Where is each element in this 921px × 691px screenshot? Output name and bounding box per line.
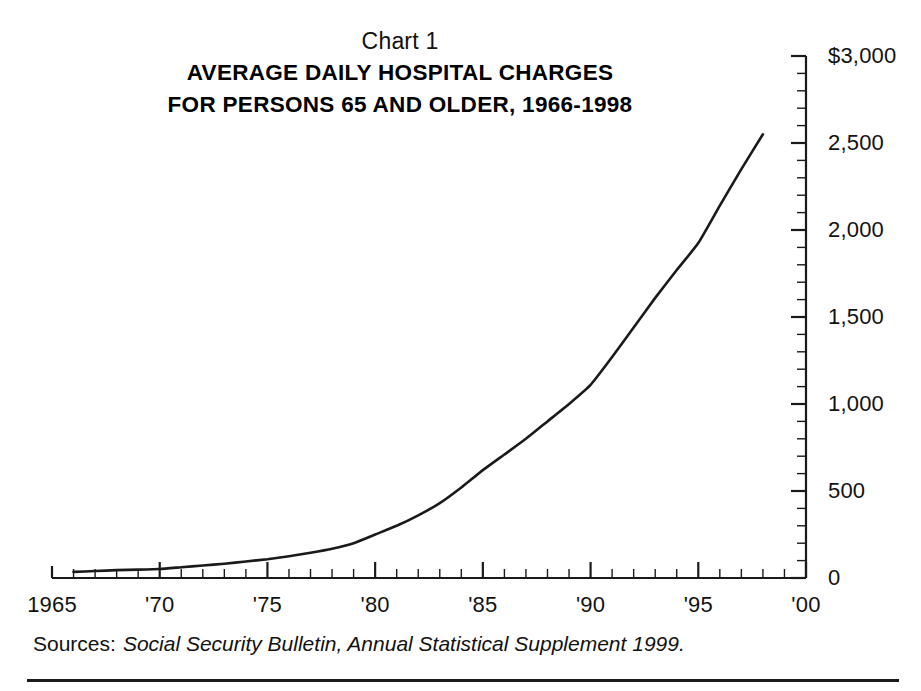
x-axis-tick-label: '95	[684, 592, 713, 618]
x-axis-tick-label: '85	[468, 592, 497, 618]
source-note: Sources:Social Security Bulletin, Annual…	[33, 632, 685, 656]
x-axis-tick-label: '90	[576, 592, 605, 618]
y-axis-tick-label: 2,500	[828, 130, 884, 156]
y-axis-tick-label: 2,000	[828, 217, 884, 243]
y-axis-tick-label: $3,000	[828, 43, 897, 69]
x-axis-tick-label: '70	[145, 592, 174, 618]
x-axis-tick-label: '00	[791, 592, 820, 618]
chart-figure: Chart 1 AVERAGE DAILY HOSPITAL CHARGES F…	[0, 0, 921, 691]
y-axis-tick-label: 500	[828, 478, 865, 504]
y-axis-tick-label: 1,000	[828, 391, 884, 417]
x-axis-tick-label: '80	[361, 592, 390, 618]
y-axis-tick-label: 0	[828, 565, 840, 591]
chart-plot-area	[0, 0, 921, 691]
source-citation: Social Security Bulletin, Annual Statist…	[123, 632, 685, 655]
source-label: Sources:	[33, 632, 116, 655]
data-series-line	[74, 134, 763, 572]
x-axis-tick-label: '75	[253, 592, 282, 618]
x-axis-tick-label: 1965	[27, 592, 77, 618]
y-axis-ticks	[791, 56, 806, 578]
x-axis-ticks	[74, 562, 806, 578]
y-axis-tick-label: 1,500	[828, 304, 884, 330]
bottom-divider	[27, 679, 899, 682]
